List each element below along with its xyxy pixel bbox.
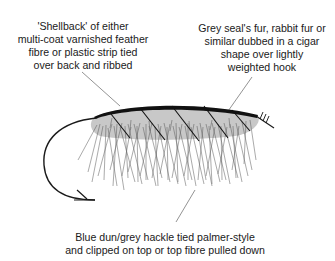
hook-eye [256,116,274,128]
leader-line-body [226,77,252,114]
leader-line-shellback [82,72,120,106]
leader-lines [82,72,252,222]
hook-shank-bend [44,118,96,200]
fly-illustration [0,0,335,261]
leader-line-hackle [176,190,195,222]
